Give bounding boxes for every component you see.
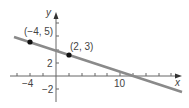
y-axis-arrow-icon — [54, 12, 59, 19]
x-tick-label-10: 10 — [114, 78, 126, 89]
y-tick-label-2: 2 — [47, 58, 53, 69]
x-tick-label-neg4: −4 — [22, 78, 34, 89]
data-line — [14, 37, 182, 92]
point-neg4-5 — [27, 39, 32, 44]
chart: (−4, 5) (2, 3) y x −4 10 2 −2 — [0, 0, 189, 108]
point-label-1: (−4, 5) — [24, 26, 53, 37]
point-2-3 — [66, 52, 71, 57]
y-axis-label: y — [45, 7, 52, 18]
y-tick-label-neg2: −2 — [42, 84, 54, 95]
point-label-2: (2, 3) — [70, 41, 93, 52]
x-axis-label: x — [174, 77, 181, 88]
